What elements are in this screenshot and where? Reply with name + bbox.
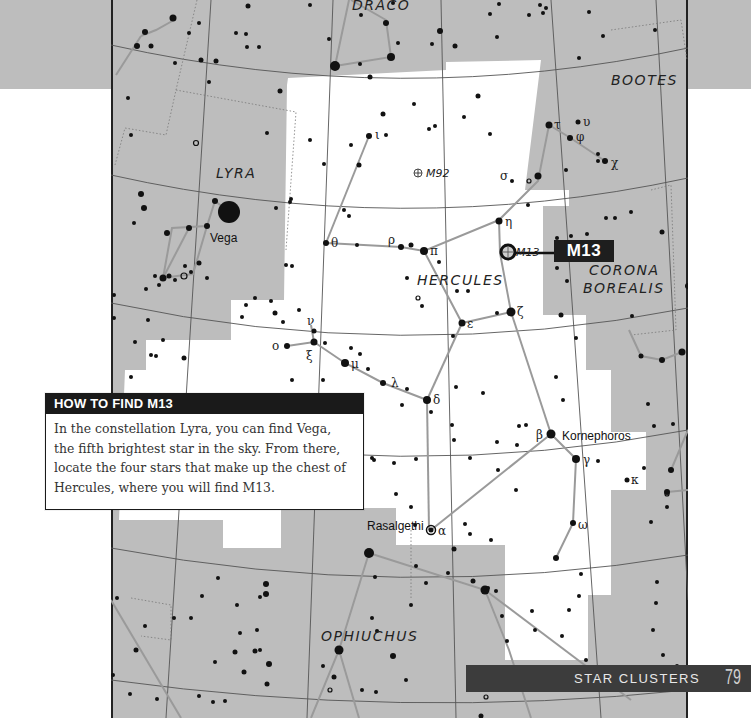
label-lyra: LYRA bbox=[216, 165, 256, 181]
label-draco: DRACO bbox=[352, 0, 410, 13]
greek-xi: ξ bbox=[306, 349, 313, 363]
how-to-find-box: HOW TO FIND M13 In the constellation Lyr… bbox=[45, 393, 364, 510]
label-corona: CORONA bbox=[589, 262, 660, 278]
greek-alpha: α bbox=[438, 524, 446, 538]
m92-label: M92 bbox=[426, 167, 450, 180]
greek-theta: θ bbox=[331, 236, 338, 250]
greek-iota: ι bbox=[375, 128, 380, 142]
greek-upsilon: υ bbox=[583, 115, 590, 129]
greek-zeta: ζ bbox=[517, 305, 524, 319]
greek-rho: ρ bbox=[388, 233, 395, 247]
section-title: STAR CLUSTERS bbox=[574, 665, 700, 692]
label-borealis: BOREALIS bbox=[583, 280, 665, 296]
greek-omicron: ο bbox=[272, 339, 279, 353]
greek-kappa: κ bbox=[631, 473, 639, 487]
how-to-find-title: HOW TO FIND M13 bbox=[46, 394, 363, 414]
star-label-kornephoros: Kornephoros bbox=[562, 429, 631, 443]
greek-eta: η bbox=[505, 215, 512, 229]
label-bootes: BOOTES bbox=[611, 72, 678, 88]
greek-lambda: λ bbox=[391, 376, 399, 390]
greek-beta: β bbox=[536, 428, 543, 442]
greek-pi: π bbox=[430, 244, 438, 258]
greek-tau: τ bbox=[554, 118, 561, 132]
m13-callout-tag: M13 bbox=[554, 240, 614, 262]
greek-gamma: γ bbox=[583, 453, 590, 467]
greek-epsilon: ε bbox=[467, 317, 473, 331]
m13-small-label: M13 bbox=[516, 246, 540, 259]
label-ophiuchus: OPHIUCHUS bbox=[321, 628, 418, 644]
greek-delta: δ bbox=[433, 393, 440, 407]
greek-nu: ν bbox=[307, 314, 314, 328]
how-to-find-body: In the constellation Lyra, you can find … bbox=[46, 414, 363, 497]
star-label-vega: Vega bbox=[210, 231, 238, 245]
greek-mu: μ bbox=[351, 357, 359, 371]
greek-sigma: σ bbox=[500, 169, 508, 183]
greek-phi: φ bbox=[576, 130, 584, 144]
greek-chi: χ bbox=[611, 156, 619, 170]
m92-cluster-icon bbox=[414, 169, 422, 177]
label-hercules: HERCULES bbox=[417, 272, 504, 288]
star-chart: M13 DRACO BOOTES LYRA HERCULES CORONA BO… bbox=[111, 0, 688, 718]
page-number: 79 bbox=[725, 662, 741, 692]
greek-omega: ω bbox=[578, 518, 588, 532]
star-label-rasalgethi: Rasalgethi bbox=[367, 519, 424, 533]
